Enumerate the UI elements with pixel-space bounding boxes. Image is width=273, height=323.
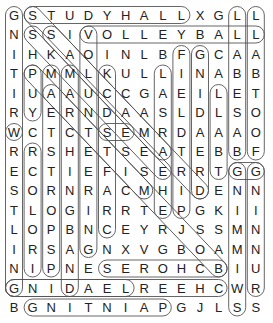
letter-cell[interactable]: E <box>154 162 172 181</box>
letter-cell[interactable]: L <box>210 103 228 122</box>
letter-cell[interactable]: G <box>191 45 209 64</box>
letter-cell[interactable]: I <box>228 259 246 278</box>
letter-cell[interactable]: R <box>24 142 42 161</box>
letter-cell[interactable]: S <box>5 181 23 200</box>
letter-cell[interactable]: B <box>154 45 172 64</box>
letter-cell[interactable]: I <box>79 201 97 220</box>
letter-cell[interactable]: A <box>228 45 246 64</box>
letter-cell[interactable]: N <box>117 45 135 64</box>
letter-cell[interactable]: I <box>191 84 209 103</box>
letter-cell[interactable]: R <box>135 279 153 298</box>
letter-cell[interactable]: T <box>5 64 23 83</box>
letter-cell[interactable]: G <box>210 6 228 25</box>
letter-cell[interactable]: I <box>5 45 23 64</box>
letter-cell[interactable]: A <box>210 123 228 142</box>
letter-cell[interactable]: H <box>172 259 190 278</box>
letter-cell[interactable]: M <box>135 123 153 142</box>
letter-cell[interactable]: T <box>98 142 116 161</box>
letter-cell[interactable]: B <box>210 142 228 161</box>
letter-cell[interactable]: M <box>228 220 246 239</box>
letter-cell[interactable]: B <box>172 240 190 259</box>
letter-cell[interactable]: D <box>172 123 190 142</box>
letter-cell[interactable]: P <box>42 259 60 278</box>
letter-cell[interactable]: S <box>135 162 153 181</box>
letter-cell[interactable]: H <box>154 181 172 200</box>
letter-cell[interactable]: L <box>135 45 153 64</box>
letter-cell[interactable]: O <box>247 123 265 142</box>
letter-cell[interactable]: I <box>172 181 190 200</box>
letter-cell[interactable]: Y <box>172 25 190 44</box>
letter-cell[interactable]: J <box>191 298 209 317</box>
letter-cell[interactable]: F <box>172 45 190 64</box>
letter-cell[interactable]: R <box>154 220 172 239</box>
letter-cell[interactable]: L <box>154 6 172 25</box>
letter-cell[interactable]: I <box>117 162 135 181</box>
letter-cell[interactable]: G <box>191 201 209 220</box>
letter-cell[interactable]: L <box>247 25 265 44</box>
letter-cell[interactable]: R <box>42 181 60 200</box>
letter-cell[interactable]: U <box>247 259 265 278</box>
letter-cell[interactable]: E <box>117 123 135 142</box>
letter-cell[interactable]: R <box>5 103 23 122</box>
letter-cell[interactable]: E <box>117 259 135 278</box>
letter-cell[interactable]: O <box>98 25 116 44</box>
letter-cell[interactable]: T <box>210 162 228 181</box>
letter-cell[interactable]: M <box>228 240 246 259</box>
letter-cell[interactable]: N <box>228 181 246 200</box>
letter-cell[interactable]: O <box>247 103 265 122</box>
letter-cell[interactable]: N <box>247 181 265 200</box>
letter-cell[interactable]: A <box>61 240 79 259</box>
letter-cell[interactable]: A <box>135 103 153 122</box>
letter-cell[interactable]: C <box>191 259 209 278</box>
letter-cell[interactable]: D <box>191 181 209 200</box>
letter-cell[interactable]: S <box>117 142 135 161</box>
letter-cell[interactable]: T <box>42 123 60 142</box>
letter-cell[interactable]: Y <box>135 220 153 239</box>
letter-cell[interactable]: I <box>5 84 23 103</box>
letter-cell[interactable]: N <box>61 259 79 278</box>
letter-cell[interactable]: A <box>191 123 209 142</box>
letter-cell[interactable]: H <box>24 45 42 64</box>
letter-cell[interactable]: U <box>61 6 79 25</box>
letter-cell[interactable]: G <box>5 6 23 25</box>
letter-cell[interactable]: G <box>5 279 23 298</box>
letter-cell[interactable]: N <box>247 220 265 239</box>
letter-cell[interactable]: R <box>117 201 135 220</box>
letter-cell[interactable]: A <box>117 103 135 122</box>
letter-cell[interactable]: U <box>79 84 97 103</box>
letter-cell[interactable]: A <box>228 123 246 142</box>
letter-cell[interactable]: I <box>42 279 60 298</box>
letter-cell[interactable]: D <box>191 103 209 122</box>
letter-cell[interactable]: G <box>79 240 97 259</box>
letter-cell[interactable]: C <box>24 162 42 181</box>
letter-cell[interactable]: E <box>154 25 172 44</box>
letter-cell[interactable]: I <box>172 64 190 83</box>
letter-cell[interactable]: S <box>24 25 42 44</box>
letter-cell[interactable]: I <box>98 45 116 64</box>
letter-cell[interactable]: W <box>5 123 23 142</box>
letter-cell[interactable]: R <box>135 259 153 278</box>
letter-cell[interactable]: E <box>154 279 172 298</box>
letter-cell[interactable]: U <box>24 84 42 103</box>
letter-cell[interactable]: H <box>117 6 135 25</box>
letter-cell[interactable]: X <box>117 240 135 259</box>
letter-cell[interactable]: G <box>61 201 79 220</box>
letter-cell[interactable]: O <box>24 181 42 200</box>
letter-cell[interactable]: A <box>154 84 172 103</box>
letter-cell[interactable]: A <box>42 84 60 103</box>
letter-cell[interactable]: G <box>24 298 42 317</box>
letter-cell[interactable]: N <box>98 240 116 259</box>
letter-cell[interactable]: R <box>191 162 209 181</box>
letter-cell[interactable]: S <box>228 103 246 122</box>
letter-cell[interactable]: Y <box>24 103 42 122</box>
letter-cell[interactable]: P <box>24 64 42 83</box>
letter-cell[interactable]: T <box>5 201 23 220</box>
letter-cell[interactable]: R <box>172 162 190 181</box>
letter-cell[interactable]: E <box>98 279 116 298</box>
letter-cell[interactable]: S <box>247 298 265 317</box>
letter-cell[interactable]: A <box>210 64 228 83</box>
letter-cell[interactable]: L <box>172 6 190 25</box>
letter-cell[interactable]: C <box>117 181 135 200</box>
letter-cell[interactable]: V <box>135 240 153 259</box>
letter-cell[interactable]: S <box>191 220 209 239</box>
